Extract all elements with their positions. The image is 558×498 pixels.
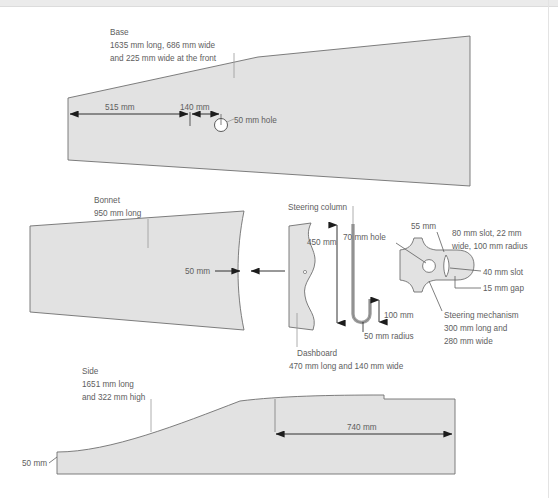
col-dim-50r-label: 50 mm radius [364, 332, 414, 341]
side-label-line3: and 322 mm high [82, 393, 146, 402]
base-label-line3: and 225 mm wide at the front [110, 54, 217, 63]
mech-80-label-line2: wide, 100 mm radius [451, 242, 528, 251]
steering-mechanism-hole [423, 260, 436, 273]
bonnet-label-line2: 950 mm long [94, 209, 142, 218]
dashboard-hole [303, 270, 306, 273]
mech-55-leader [437, 232, 444, 252]
mech-80-label-line1: 80 mm slot, 22 mm [452, 229, 522, 238]
part-steering-mechanism: 70 mm hole 55 mm 80 mm slot, 22 mm wide,… [343, 222, 528, 346]
mech-70-label: 70 mm hole [343, 233, 386, 242]
mech-caption-leader [429, 281, 442, 311]
mech-label-line2: 300 mm long and [444, 324, 508, 333]
part-base: Base 1635 mm long, 686 mm wide and 225 m… [68, 28, 470, 186]
part-bonnet: Bonnet 950 mm long 50 mm [30, 196, 285, 330]
bonnet-label-line1: Bonnet [94, 196, 121, 205]
side-label-line1: Side [82, 367, 99, 376]
side-label-line2: 1651 mm long [82, 380, 134, 389]
technical-drawing-page: Base 1635 mm long, 686 mm wide and 225 m… [0, 0, 558, 498]
mech-label-line1: Steering mechanism [444, 311, 519, 320]
dashboard-label-line1: Dashboard [297, 349, 338, 358]
dashboard-label-line2: 470 mm long and 140 mm wide [289, 362, 404, 371]
side-dim-50-leader [49, 457, 57, 463]
mech-15-label: 15 mm gap [483, 284, 524, 293]
side-dim-50-label: 50 mm [22, 459, 47, 468]
mech-55-label: 55 mm [411, 222, 436, 231]
mech-label-line3: 280 mm wide [444, 337, 493, 346]
base-hole-label: 50 mm hole [234, 116, 277, 125]
base-dim-140-label: 140 mm [180, 103, 210, 112]
bonnet-outline [30, 211, 244, 330]
drawing-canvas: Base 1635 mm long, 686 mm wide and 225 m… [0, 0, 558, 498]
side-outline [57, 395, 455, 474]
steering-column-label: Steering column [288, 203, 348, 212]
col-dim-100-label: 100 mm [384, 311, 414, 320]
base-dim-515-label: 515 mm [105, 103, 135, 112]
bonnet-dim-50-label: 50 mm [185, 267, 210, 276]
side-dim-740-label: 740 mm [347, 423, 377, 432]
mech-40-label: 40 mm slot [483, 268, 524, 277]
base-label-line1: Base [110, 28, 129, 37]
col-dim-450-label: 450 mm [307, 238, 337, 247]
part-side: Side 1651 mm long and 322 mm high 50 mm … [22, 367, 455, 474]
base-label-line2: 1635 mm long, 686 mm wide [110, 41, 216, 50]
